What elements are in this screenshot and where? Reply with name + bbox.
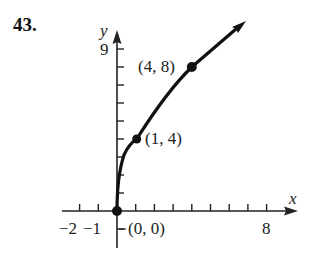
point-origin [112,206,122,216]
x-axis-label: x [288,189,297,208]
point-1-4 [132,135,141,144]
graph: y x 9 −2 −1 8 (0, 0) (1, 4) (4, 8) [0,0,309,254]
x-tick-label-neg2: −2 [59,219,77,238]
point-label-1-4: (1, 4) [145,129,182,148]
curve-sqrt [117,29,236,211]
y-axis-label: y [98,21,108,40]
point-label-origin: (0, 0) [128,219,165,238]
point-4-8 [187,62,197,72]
point-label-4-8: (4, 8) [138,57,175,76]
x-axis-ticks [80,204,267,211]
y-axis-arrow-icon [113,30,122,44]
x-tick-label-8: 8 [262,219,271,238]
x-axis [62,204,298,216]
y-tick-label-9: 9 [100,40,109,59]
x-tick-label-neg1: −1 [83,219,101,238]
